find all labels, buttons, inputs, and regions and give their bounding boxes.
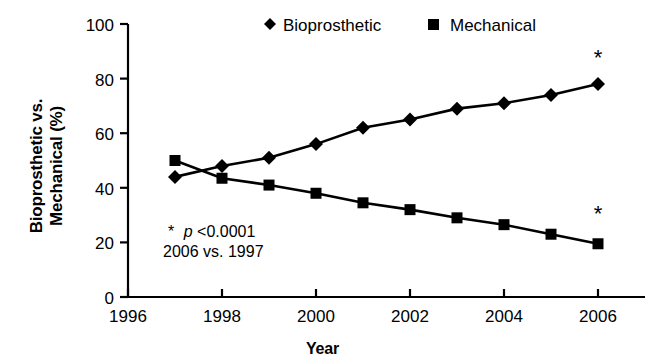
significance-asterisk-bioprosthetic: * (594, 45, 603, 70)
x-tick-label: 2002 (391, 307, 429, 326)
data-point-bioprosthetic-2006 (591, 77, 605, 91)
data-point-bioprosthetic-2000 (309, 137, 323, 151)
data-point-mechanical-2006 (593, 238, 604, 249)
chart-figure: Bioprosthetic vs. Mechanical (%) Year 10… (0, 0, 645, 359)
data-point-bioprosthetic-2002 (403, 113, 417, 127)
x-axis-ticks (128, 289, 598, 297)
note-p-value: <0.0001 (197, 223, 255, 240)
data-point-mechanical-2002 (405, 204, 416, 215)
data-point-mechanical-1998 (217, 173, 228, 184)
data-point-mechanical-2004 (499, 219, 510, 230)
note-line-1: * p <0.0001 (168, 223, 255, 240)
data-point-bioprosthetic-1997 (168, 170, 182, 184)
x-tick-label: 1998 (203, 307, 241, 326)
x-tick-label: 2004 (485, 307, 523, 326)
data-point-bioprosthetic-2005 (544, 88, 558, 102)
y-tick-label: 60 (95, 125, 114, 144)
data-point-bioprosthetic-2004 (497, 96, 511, 110)
x-tick-label: 2000 (297, 307, 335, 326)
chart-plot-area: 100 80 60 40 20 0 1996 1998 2000 2002 20… (0, 0, 645, 359)
x-axis-tick-labels: 1996 1998 2000 2002 2004 2006 (109, 307, 617, 326)
data-point-mechanical-2005 (546, 229, 557, 240)
y-tick-label: 80 (95, 71, 114, 90)
data-point-mechanical-2001 (358, 197, 369, 208)
data-point-mechanical-1999 (264, 180, 275, 191)
data-point-mechanical-1997 (170, 155, 181, 166)
legend-item-label-bioprosthetic: Bioprosthetic (283, 16, 382, 35)
legend-item-label-mechanical: Mechanical (450, 16, 536, 35)
y-axis-tick-labels: 100 80 60 40 20 0 (86, 16, 114, 308)
statistical-note: * p <0.0001 2006 vs. 1997 (163, 223, 264, 260)
note-p-symbol: p (183, 223, 193, 240)
y-tick-label: 0 (105, 289, 114, 308)
data-point-bioprosthetic-2001 (356, 121, 370, 135)
note-line-2: 2006 vs. 1997 (163, 243, 264, 260)
data-point-bioprosthetic-1998 (215, 159, 229, 173)
series-line-bioprosthetic (175, 84, 598, 177)
y-tick-label: 20 (95, 234, 114, 253)
y-axis-ticks (120, 24, 128, 297)
significance-asterisk-mechanical: * (594, 201, 603, 226)
x-tick-label: 1996 (109, 307, 147, 326)
legend-square-icon (428, 19, 439, 30)
data-point-mechanical-2000 (311, 188, 322, 199)
series-markers-bioprosthetic (168, 77, 605, 184)
legend-diamond-icon (264, 18, 276, 30)
data-point-mechanical-2003 (452, 212, 463, 223)
data-point-bioprosthetic-1999 (262, 151, 276, 165)
y-tick-label: 40 (95, 180, 114, 199)
data-point-bioprosthetic-2003 (450, 102, 464, 116)
x-tick-label: 2006 (579, 307, 617, 326)
chart-legend: Bioprosthetic Mechanical (264, 16, 536, 35)
y-tick-label: 100 (86, 16, 114, 35)
note-asterisk: * (168, 223, 174, 240)
